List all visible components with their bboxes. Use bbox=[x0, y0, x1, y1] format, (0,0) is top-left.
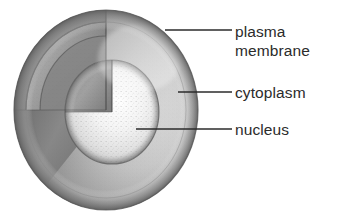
label-nucleus-line1: nucleus bbox=[235, 120, 289, 139]
label-plasma-membrane: plasma membrane bbox=[235, 22, 310, 60]
label-cytoplasm: cytoplasm bbox=[235, 83, 306, 102]
cell-diagram-figure: plasma membrane cytoplasm nucleus bbox=[0, 0, 346, 220]
cell-rim-shading bbox=[14, 10, 198, 210]
label-nucleus: nucleus bbox=[235, 120, 289, 139]
label-cytoplasm-line1: cytoplasm bbox=[235, 83, 306, 102]
label-plasma-membrane-line1: plasma bbox=[235, 22, 310, 41]
label-plasma-membrane-line2: membrane bbox=[235, 41, 310, 60]
